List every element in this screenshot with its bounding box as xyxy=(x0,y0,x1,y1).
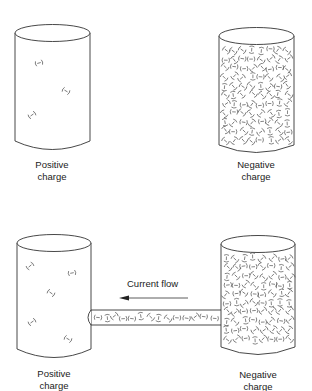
negative-cylinder-top xyxy=(219,28,294,153)
charge-diagram: Positive charge Negative charge Current … xyxy=(0,0,312,391)
label-negative-bottom-1: Negative xyxy=(239,369,277,380)
label-positive-bottom-2: charge xyxy=(39,380,68,391)
label-negative-top-1: Negative xyxy=(237,159,275,170)
current-flow-label: Current flow xyxy=(127,278,178,289)
conductor-wire xyxy=(88,310,222,325)
label-positive-bottom-1: Positive xyxy=(37,368,70,379)
label-positive-top-2: charge xyxy=(37,171,66,182)
label-negative-bottom-2: charge xyxy=(243,381,272,391)
wire-charges xyxy=(94,312,219,323)
label-negative-top-2: charge xyxy=(241,171,270,182)
positive-cylinder-top xyxy=(15,25,90,150)
negative-cylinder-bottom xyxy=(221,236,296,355)
positive-cylinder-bottom xyxy=(17,235,91,358)
label-positive-top-1: Positive xyxy=(35,159,68,170)
arrow-left-icon xyxy=(119,296,188,301)
